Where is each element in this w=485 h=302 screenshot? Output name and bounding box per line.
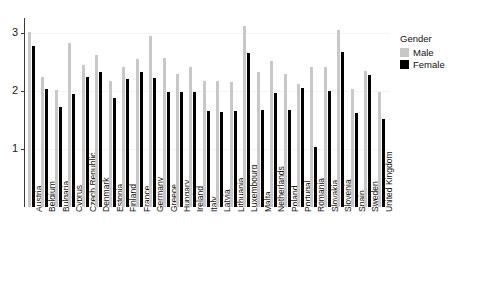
legend-entries: MaleFemale [400,47,445,70]
bar-female [153,78,156,207]
bar-male [230,82,233,207]
bar-group [242,18,253,207]
bar-male [351,89,354,207]
bar-male [149,36,152,207]
bar-female [234,111,237,207]
y-tick-label: 3 [2,27,18,38]
bar-female [288,110,291,207]
bar-male [95,55,98,207]
bar-group [81,18,92,207]
bar-group [256,18,267,207]
bar-group [215,18,226,207]
bar-female [368,75,371,207]
legend-title: Gender [400,33,445,44]
bar-male [337,30,340,207]
bar-group [377,18,388,207]
bar-group [202,18,213,207]
bar-group [269,18,280,207]
bar-female [113,98,116,207]
legend-label: Female [413,59,445,70]
bar-female [301,88,304,207]
legend-swatch-female [400,60,409,69]
bar-female [99,72,102,207]
bar-male [136,59,139,207]
bar-female [355,113,358,207]
bar-male [257,72,260,207]
legend: Gender MaleFemale [400,33,445,71]
bar-female [193,92,196,207]
bar-female [167,92,170,207]
bar-group [188,18,199,207]
bar-male [28,32,31,207]
bar-group [229,18,240,207]
bar-female [341,52,344,207]
bar-male [270,61,273,207]
bar-male [203,81,206,207]
bar-female [180,92,183,207]
bar-group [148,18,159,207]
bar-female [328,91,331,207]
legend-label: Male [413,47,434,58]
bar-group [94,18,105,207]
bar-male [310,67,313,207]
grouped-bar-chart: 123 AustriaBelgiumBulgariaCyprusCzech Re… [0,0,485,302]
bar-female [86,77,89,208]
legend-swatch-male [400,48,409,57]
bar-group [296,18,307,207]
legend-entry: Female [400,59,445,70]
bar-group [336,18,347,207]
bar-group [363,18,374,207]
bar-group [54,18,65,207]
bar-group [121,18,132,207]
bar-male [55,90,58,207]
bar-group [162,18,173,207]
bar-male [216,81,219,207]
bar-female [220,112,223,207]
bar-female [261,110,264,207]
bar-female [382,119,385,207]
bar-group [67,18,78,207]
bar-group [350,18,361,207]
bar-group [40,18,51,207]
bar-female [45,89,48,207]
bar-female [32,46,35,207]
bar-male [243,26,246,207]
bar-male [109,81,112,207]
bar-female [274,93,277,207]
bar-male [378,92,381,207]
bar-male [122,67,125,207]
bar-group [135,18,146,207]
bar-male [284,74,287,207]
bar-female [59,107,62,207]
bar-female [314,147,317,207]
bar-male [324,67,327,207]
bar-group [27,18,38,207]
bar-male [68,43,71,207]
bar-male [189,67,192,207]
y-tick-label: 1 [2,143,18,154]
bar-male [41,77,44,208]
bar-female [72,94,75,207]
bar-group [175,18,186,207]
bar-group [283,18,294,207]
bar-female [126,79,129,207]
bar-male [364,71,367,207]
bar-group [323,18,334,207]
bar-group [309,18,320,207]
bar-female [140,72,143,207]
bar-female [207,111,210,207]
bar-male [176,74,179,207]
bar-female [247,53,250,207]
bar-male [163,58,166,207]
legend-entry: Male [400,47,445,58]
bar-group [108,18,119,207]
y-tick-label: 2 [2,85,18,96]
bar-male [82,65,85,207]
bar-male [297,84,300,207]
